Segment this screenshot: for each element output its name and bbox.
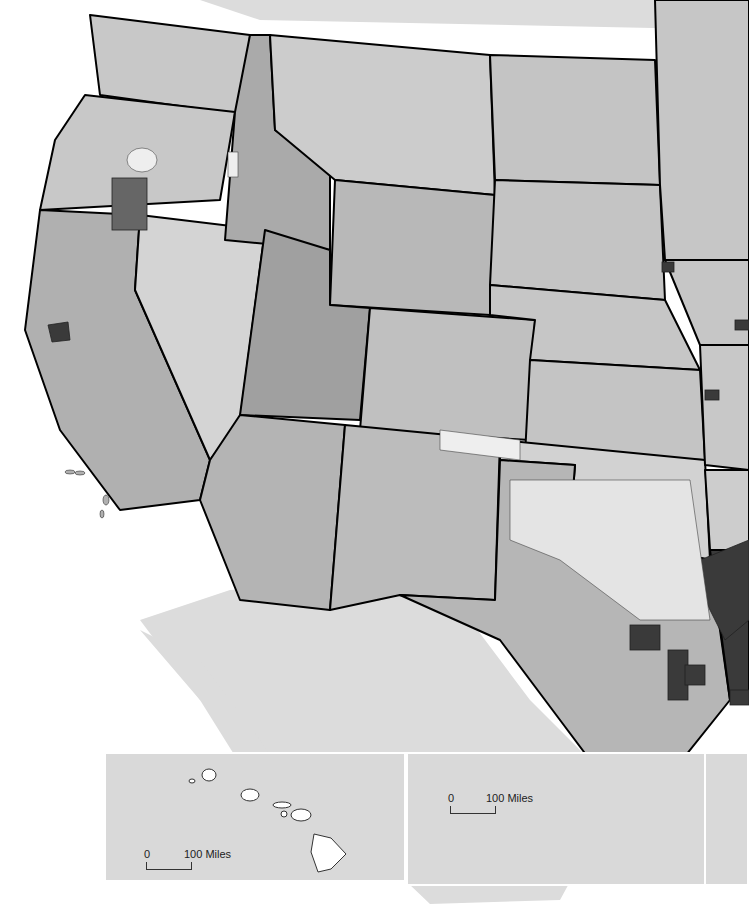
second-scale-bar: 0 100 Miles <box>448 792 558 816</box>
island-1 <box>65 470 75 474</box>
third-inset <box>704 752 749 886</box>
second-inset: 0 100 Miles <box>406 752 718 886</box>
island-maui <box>291 809 311 821</box>
state-arkansas <box>705 470 749 550</box>
island-lanai <box>281 811 287 817</box>
county-dark-texas-3 <box>685 665 705 685</box>
scale-bar-line <box>146 862 192 870</box>
island-niihau <box>189 779 195 783</box>
state-minnesota <box>655 0 749 260</box>
state-arizona <box>200 415 345 610</box>
county-dark-sf-bay <box>48 322 70 342</box>
county-light-oregon <box>127 148 157 172</box>
county-dark-nebraska <box>662 262 674 272</box>
county-dark-oregon <box>112 178 147 230</box>
state-wyoming <box>330 180 495 315</box>
island-2 <box>75 471 85 475</box>
county-dark-texas-1 <box>630 625 660 650</box>
island-hawaii <box>311 834 346 872</box>
scale-zero-label: 0 <box>448 792 454 804</box>
island-molokai <box>273 802 291 808</box>
county-dark-texas-4 <box>730 690 749 705</box>
state-south-dakota <box>490 180 665 300</box>
island-4 <box>100 510 104 518</box>
state-missouri <box>700 345 749 470</box>
scale-miles-label: 100 Miles <box>486 792 533 804</box>
scale-bar-line <box>450 806 496 814</box>
island-oahu <box>241 789 259 801</box>
island-3 <box>103 495 109 505</box>
county-light-idaho <box>228 152 238 177</box>
hawaii-scale-bar: 0 100 Miles <box>144 848 234 872</box>
scale-zero-label: 0 <box>144 848 150 860</box>
county-dark-iowa <box>735 320 749 330</box>
hawaii-inset: 0 100 Miles <box>104 752 406 882</box>
state-north-dakota <box>490 55 660 185</box>
county-dark-missouri <box>705 390 719 400</box>
state-colorado <box>360 308 535 440</box>
scale-miles-label: 100 Miles <box>184 848 231 860</box>
island-kauai <box>202 769 216 781</box>
